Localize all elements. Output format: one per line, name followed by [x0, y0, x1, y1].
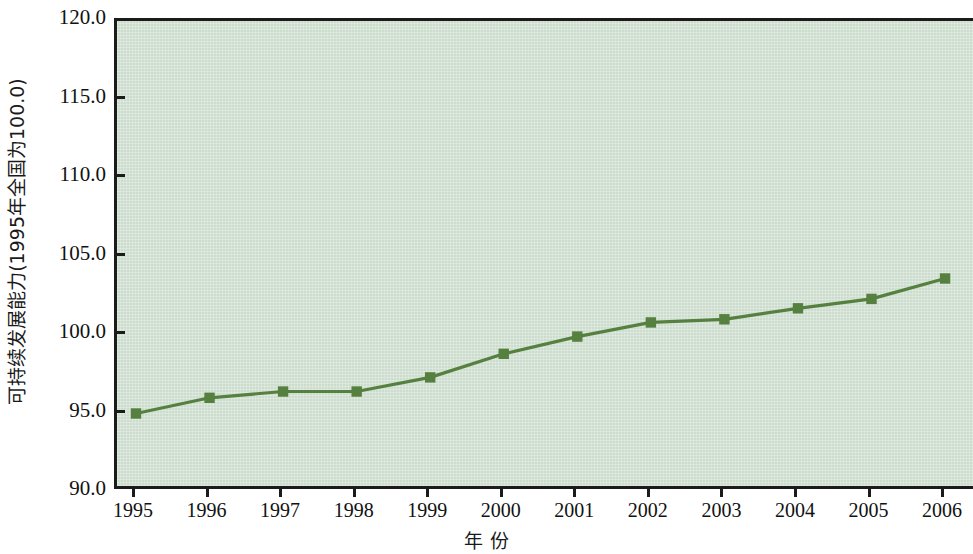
x-axis-tick-mark	[868, 486, 871, 497]
y-axis-tick-mark	[114, 174, 125, 177]
x-axis-title: 年 份	[0, 526, 973, 553]
line-chart: 可持续发展能力(1995年全国为100.0) 90.095.0100.0105.…	[0, 0, 973, 554]
x-axis-tick-mark	[573, 486, 576, 497]
x-axis-tick-mark	[279, 486, 282, 497]
x-axis-tick-mark	[206, 486, 209, 497]
x-axis-tick-mark	[941, 486, 944, 497]
y-axis-tick-labels: 90.095.0100.0105.0110.0115.0120.0	[6, 0, 106, 554]
x-axis-tick-label: 2006	[897, 500, 973, 520]
series-data-point	[866, 294, 876, 304]
x-axis-title-text: 年 份	[464, 530, 508, 552]
series-data-point	[499, 349, 509, 359]
series-line	[136, 278, 945, 413]
y-axis-tick-label: 110.0	[20, 164, 106, 185]
plot-area	[114, 18, 973, 489]
series-data-point	[278, 386, 288, 396]
x-axis-tick-mark	[720, 486, 723, 497]
y-axis-tick-label: 105.0	[20, 243, 106, 264]
y-axis-tick-mark	[114, 253, 125, 256]
series-data-point	[351, 386, 361, 396]
y-axis-tick-label: 115.0	[20, 86, 106, 107]
y-axis-tick-mark	[114, 96, 125, 99]
y-axis-tick-label: 120.0	[20, 7, 106, 28]
series-data-point	[572, 331, 582, 341]
series-data-point	[646, 317, 656, 327]
series-data-point	[425, 372, 435, 382]
x-axis-tick-mark	[353, 486, 356, 497]
series-data-point	[204, 393, 214, 403]
y-axis-tick-mark	[114, 410, 125, 413]
series-data-point	[719, 314, 729, 324]
series-data-point	[131, 408, 141, 418]
y-axis-tick-label: 95.0	[20, 400, 106, 421]
y-axis-tick-label: 90.0	[20, 478, 106, 499]
series-data-point	[793, 303, 803, 313]
x-axis-tick-mark	[794, 486, 797, 497]
x-axis-tick-mark	[426, 486, 429, 497]
y-axis-tick-mark	[114, 331, 125, 334]
series-data-point	[940, 273, 950, 283]
x-axis-tick-mark	[132, 486, 135, 497]
data-series-layer	[117, 21, 973, 489]
x-axis-tick-mark	[647, 486, 650, 497]
x-axis-tick-mark	[500, 486, 503, 497]
y-axis-tick-label: 100.0	[20, 321, 106, 342]
